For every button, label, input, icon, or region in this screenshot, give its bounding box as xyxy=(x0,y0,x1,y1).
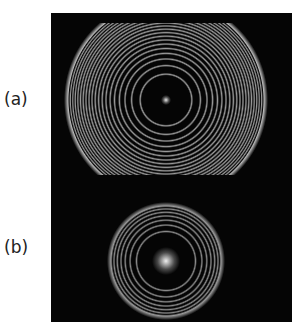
image-panel xyxy=(51,13,292,322)
panel-label-a: (a) xyxy=(4,91,28,108)
panel-label-b: (b) xyxy=(4,239,28,256)
interference-rings-a xyxy=(62,23,270,175)
ring-pattern-a xyxy=(51,23,292,175)
ring-pattern-b xyxy=(51,175,292,322)
figure: (a) (b) xyxy=(0,0,303,334)
interference-rings-b xyxy=(105,200,227,322)
